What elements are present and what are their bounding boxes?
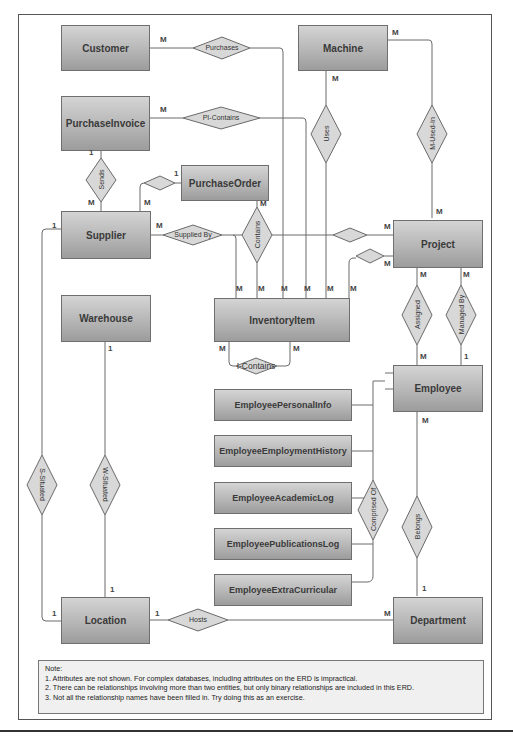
entity-employee[interactable]: Employee: [393, 365, 483, 412]
entity-purchase-order[interactable]: PurchaseOrder: [181, 165, 269, 201]
rel-label-hosts: Hosts: [178, 616, 218, 623]
rel-label-purchases: Purchases: [203, 44, 241, 51]
rel-label-pi-contains: PI-Contains: [195, 114, 247, 121]
card-inv-icontains-right: M: [293, 344, 300, 353]
entity-employee-publications-log[interactable]: EmployeePublicationsLog: [214, 528, 352, 560]
entity-location[interactable]: Location: [61, 597, 150, 644]
card-customer-purchases: M: [160, 35, 167, 44]
card-employee-managedby: 1: [464, 352, 468, 361]
card-inv-6: M: [350, 284, 357, 293]
card-inv-3: M: [281, 284, 288, 293]
rel-label-contains: Contains: [254, 210, 261, 260]
rel-label-assigned: Assigned: [414, 290, 421, 340]
rel-label-w-situated: W-Situated: [102, 460, 109, 510]
entity-warehouse[interactable]: Warehouse: [61, 295, 151, 342]
entity-customer[interactable]: Customer: [61, 25, 150, 71]
note-title: Note:: [45, 664, 477, 674]
entity-department[interactable]: Department: [393, 597, 483, 644]
card-pi-sends: 1: [89, 148, 93, 157]
rel-label-belongs: Belongs: [414, 502, 421, 552]
card-supplier-ssituated: 1: [52, 221, 56, 230]
card-warehouse-wsituated: 1: [108, 344, 112, 353]
entity-employee-personal-info[interactable]: EmployeePersonalInfo: [214, 389, 352, 421]
rel-label-supplied-by: Supplied By: [168, 231, 218, 238]
card-supplier-sends: M: [88, 198, 95, 207]
card-inv-2: M: [258, 284, 265, 293]
entity-supplier[interactable]: Supplier: [61, 211, 151, 259]
card-location-wsituated: 1: [110, 585, 114, 594]
rel-label-sends: Sends: [98, 160, 105, 200]
entity-machine[interactable]: Machine: [298, 25, 388, 71]
note-line-2: 2. There can be relationships involving …: [45, 683, 477, 693]
entity-project[interactable]: Project: [393, 220, 483, 268]
card-employee-belongs: M: [422, 416, 429, 425]
card-inv-icontains-left: M: [219, 344, 226, 353]
card-department-belongs: 1: [422, 584, 426, 593]
card-location-ssituated: 1: [52, 609, 56, 618]
entity-inventory-item[interactable]: InventoryItem: [214, 298, 350, 342]
entity-employee-extra-curricular[interactable]: EmployeeExtraCurricular: [214, 574, 352, 606]
card-location-hosts: 1: [155, 609, 159, 618]
note-line-3: 3. Not all the relationship names have b…: [45, 693, 477, 703]
entity-purchase-invoice[interactable]: PurchaseInvoice: [61, 96, 150, 151]
card-machine-usedin: M: [392, 28, 399, 37]
rel-label-managed-by: Managed By: [458, 285, 465, 345]
note-box: Note: 1. Attributes are not shown. For c…: [38, 660, 484, 714]
rel-label-i-contains: I-Contains: [232, 361, 280, 371]
card-employee-assigned: M: [420, 352, 427, 361]
rel-inv-project-2: [356, 249, 384, 263]
rel-supplier-po: [144, 176, 175, 190]
card-po-supplier: 1: [174, 169, 178, 178]
entity-employee-employment-history[interactable]: EmployeeEmploymentHistory: [214, 435, 352, 467]
card-supplier-po: M: [144, 198, 151, 207]
card-inv-4: M: [304, 284, 311, 293]
card-project-left-2: M: [384, 259, 391, 268]
card-pi-picontains: M: [160, 105, 167, 114]
card-inv-5: M: [327, 284, 334, 293]
rel-label-m-used-in: M-Used-In: [429, 109, 436, 159]
rel-label-comprised-of: Comprised Of: [370, 480, 377, 540]
card-project-managedby: M: [463, 270, 470, 279]
rel-inv-project: [333, 228, 367, 242]
card-supplier-suppliedby: M: [156, 221, 163, 230]
card-project-left: M: [384, 222, 391, 231]
note-line-1: 1. Attributes are not shown. For complex…: [45, 674, 477, 684]
card-machine-uses: M: [332, 74, 339, 83]
card-po-contains: M: [260, 199, 267, 208]
card-inv-1: M: [236, 284, 243, 293]
card-department-hosts: M: [384, 609, 391, 618]
entity-employee-academic-log[interactable]: EmployeeAcademicLog: [214, 482, 352, 514]
rel-label-s-situated: S-Situated: [39, 460, 46, 510]
rel-label-uses: Uses: [323, 114, 330, 154]
card-project-usedin: M: [436, 207, 443, 216]
card-project-assigned: M: [420, 270, 427, 279]
